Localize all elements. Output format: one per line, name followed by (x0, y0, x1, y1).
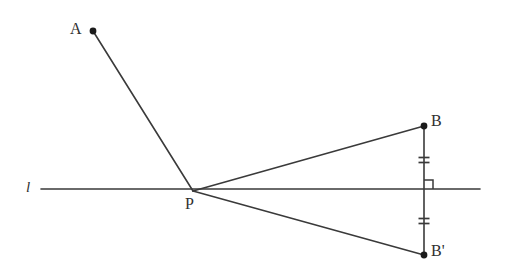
geometry-figure: l A P B B' (0, 0, 509, 276)
segment-PB (193, 126, 424, 191)
point-A-dot (90, 28, 97, 35)
point-A-label: A (70, 21, 82, 37)
segment-PB-prime (193, 191, 424, 255)
point-P-label: P (185, 196, 194, 212)
segment-AP (93, 31, 193, 191)
diagram-canvas (0, 0, 509, 276)
right-angle-square-icon (424, 180, 433, 189)
point-B-prime-dot (421, 252, 428, 259)
point-B-label: B (431, 113, 442, 129)
point-B-prime-label: B' (431, 243, 445, 259)
point-B-dot (421, 123, 428, 130)
line-l-label: l (26, 180, 30, 195)
